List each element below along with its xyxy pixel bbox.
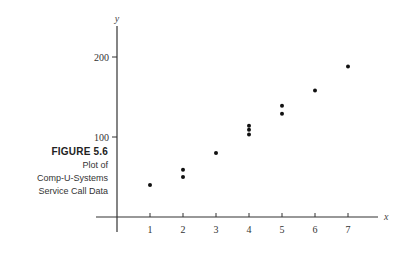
- y-tick-label: 200: [94, 52, 109, 63]
- x-tick-label: 2: [181, 224, 186, 235]
- data-point: [247, 128, 251, 132]
- axes: yx1234567100200: [94, 13, 389, 235]
- data-points: [148, 65, 350, 187]
- data-point: [346, 65, 350, 69]
- y-axis-label: y: [114, 13, 120, 24]
- data-point: [181, 168, 185, 172]
- x-tick-label: 4: [247, 224, 252, 235]
- data-point: [247, 124, 251, 128]
- data-point: [214, 151, 218, 155]
- x-tick-label: 5: [280, 224, 285, 235]
- data-point: [148, 183, 152, 187]
- data-point: [247, 133, 251, 137]
- x-tick-label: 1: [148, 224, 153, 235]
- x-tick-label: 6: [313, 224, 318, 235]
- y-tick-label: 100: [94, 132, 109, 143]
- x-tick-label: 3: [214, 224, 219, 235]
- x-axis-label: x: [383, 211, 389, 222]
- data-point: [313, 89, 317, 93]
- data-point: [181, 175, 185, 179]
- data-point: [280, 112, 284, 116]
- scatter-plot: yx1234567100200: [0, 0, 408, 258]
- x-tick-label: 7: [346, 224, 351, 235]
- data-point: [280, 104, 284, 108]
